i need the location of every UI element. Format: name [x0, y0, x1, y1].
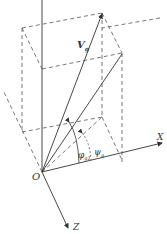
vector-diagram: Vg φg1 ψg O X Z [0, 0, 167, 234]
z-axis [42, 172, 68, 228]
vector-label: Vg [77, 39, 89, 53]
phi-label: φg1 [78, 150, 91, 162]
origin-label: O [32, 171, 40, 182]
z-axis-extension [3, 90, 42, 172]
vertical-edges [22, 13, 122, 162]
bottom-box [22, 117, 122, 172]
psi-label: ψg [94, 147, 104, 159]
vector-vg [42, 14, 102, 172]
x-axis-label: X [156, 132, 164, 142]
top-box [22, 13, 160, 69]
z-axis-label: Z [72, 222, 80, 232]
